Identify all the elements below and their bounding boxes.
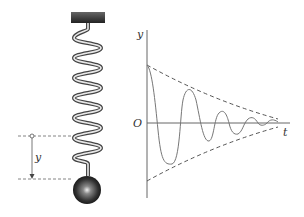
displacement-label: y: [34, 151, 42, 164]
ceiling-block: [71, 12, 105, 23]
t-axis-label: t: [283, 126, 288, 139]
mass-ball: [73, 176, 101, 204]
arrow-head-icon: [30, 174, 35, 179]
equilibrium-point: [30, 134, 34, 138]
y-axis-label: y: [136, 28, 144, 41]
upper-envelope: [147, 65, 278, 119]
diagram: y y O t: [0, 0, 304, 217]
origin-label: O: [133, 117, 142, 130]
spring: [74, 23, 101, 176]
